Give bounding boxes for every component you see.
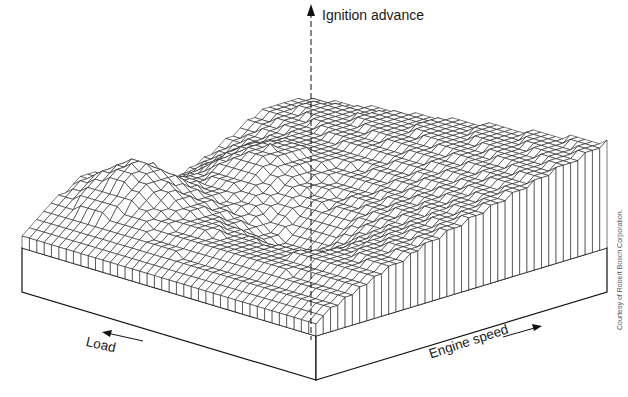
- engine-speed-arrow-icon: [532, 324, 542, 331]
- z-axis-arrow-icon: [307, 4, 315, 16]
- credit-text: Courtesy of Robert Bosch Corporation.: [616, 209, 623, 330]
- load-arrow-icon: [102, 330, 112, 337]
- z-axis-label: Ignition advance: [322, 7, 424, 23]
